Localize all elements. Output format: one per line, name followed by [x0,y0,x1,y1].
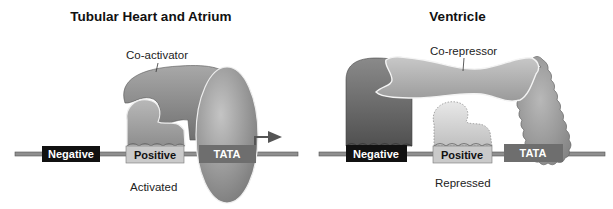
positive-label: Positive [441,149,483,161]
activation-diagram: Negative Positive TATA Co-activator Acti… [0,0,306,209]
co-repressor-protein [376,57,539,101]
state-label: Activated [130,181,177,193]
tata-label: TATA [214,148,241,160]
repression-diagram: Negative Positive TATA Co-repressor Repr… [306,0,613,209]
panel-tubular-heart-atrium: Tubular Heart and Atrium Negative [0,0,306,209]
negative-label: Negative [48,148,94,160]
co-activator-label: Co-activator [126,49,188,61]
co-repressor-label: Co-repressor [430,45,497,57]
tata-binding-protein [196,67,258,203]
transcription-arrowhead [268,131,282,143]
positive-activator-protein [433,102,492,146]
panel-ventricle: Ventricle Negative [306,0,613,209]
state-label: Repressed [435,177,491,189]
negative-label: Negative [353,148,399,160]
tata-label: TATA [520,147,547,159]
positive-label: Positive [134,149,176,161]
